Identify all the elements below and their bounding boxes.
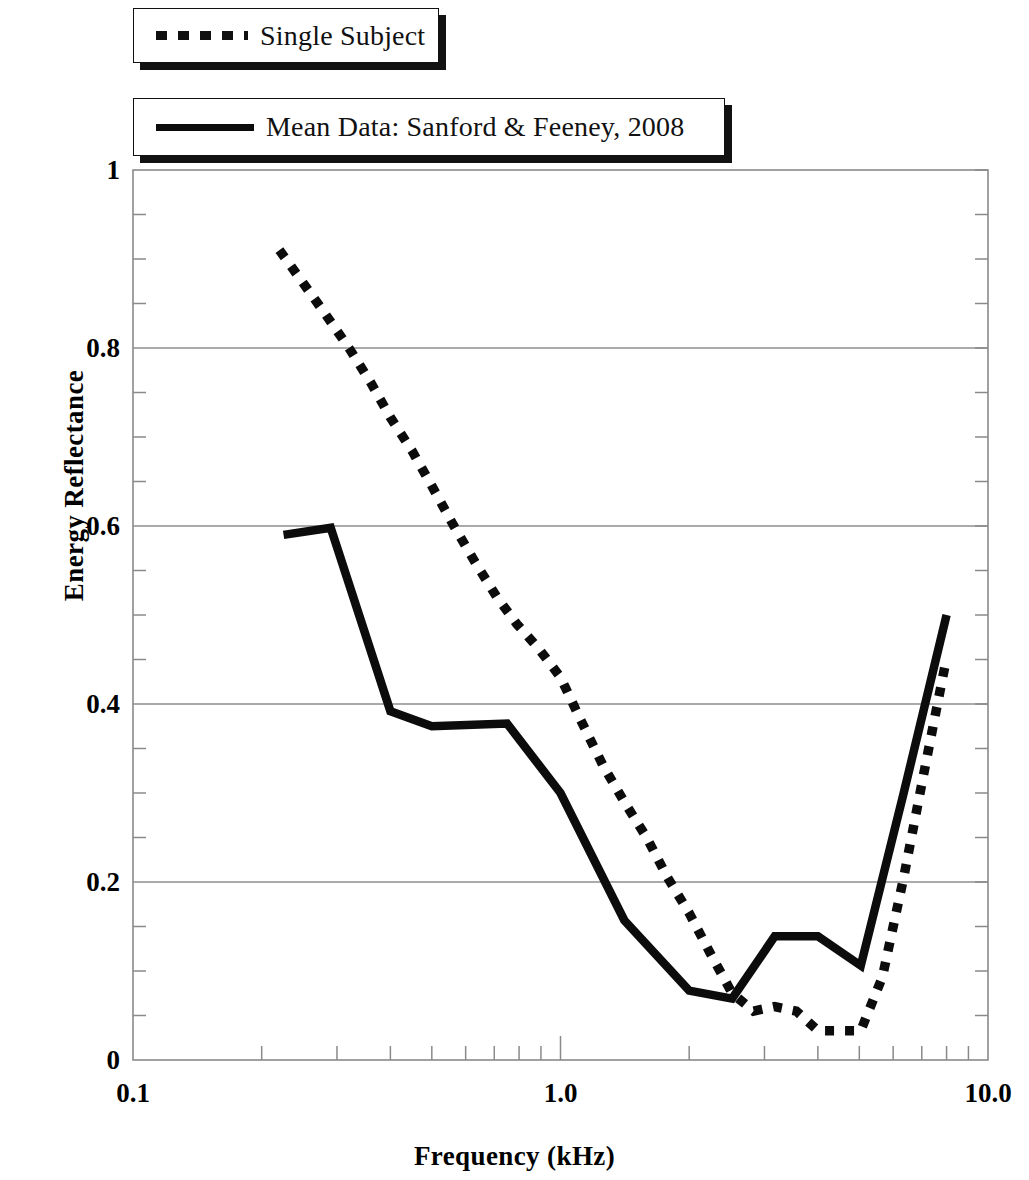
- plot-frame: [133, 170, 988, 1060]
- plot-area: [0, 0, 1029, 1180]
- chart-figure: Single Subject Mean Data: Sanford & Feen…: [0, 0, 1029, 1180]
- series-line-mean-data: [284, 528, 947, 999]
- series-line-single-subject: [279, 250, 946, 1031]
- axis-ticks: [133, 170, 988, 1060]
